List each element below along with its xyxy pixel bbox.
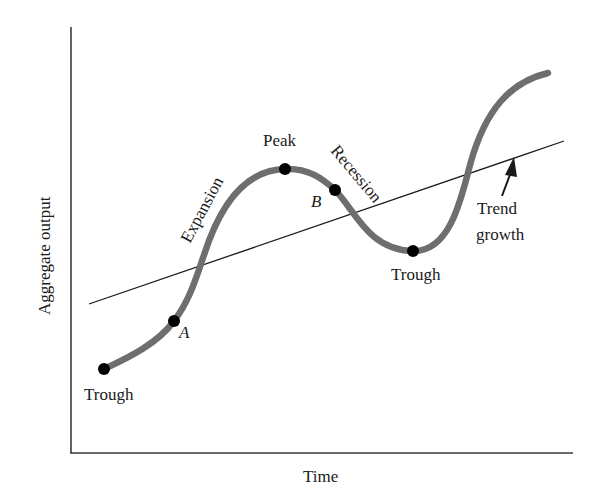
business-cycle-diagram: Trough A Peak B Trough Expansion Recessi… — [0, 0, 608, 499]
trend-label-line2: growth — [476, 225, 525, 244]
x-axis-label: Time — [303, 467, 338, 486]
peak-point — [279, 163, 291, 175]
trough-label-2: Trough — [391, 265, 441, 284]
point-b-label: B — [311, 192, 322, 211]
trough-point-2 — [407, 245, 419, 257]
trough-point-1 — [98, 363, 110, 375]
trough-label-1: Trough — [84, 385, 134, 404]
trend-growth-line — [89, 141, 564, 304]
trend-label-line1: Trend — [477, 199, 517, 218]
point-a-label: A — [178, 323, 190, 342]
point-b — [329, 184, 341, 196]
recession-label: Recession — [327, 141, 386, 206]
y-axis-label: Aggregate output — [35, 196, 54, 315]
peak-label: Peak — [263, 131, 297, 150]
expansion-label: Expansion — [177, 173, 228, 246]
